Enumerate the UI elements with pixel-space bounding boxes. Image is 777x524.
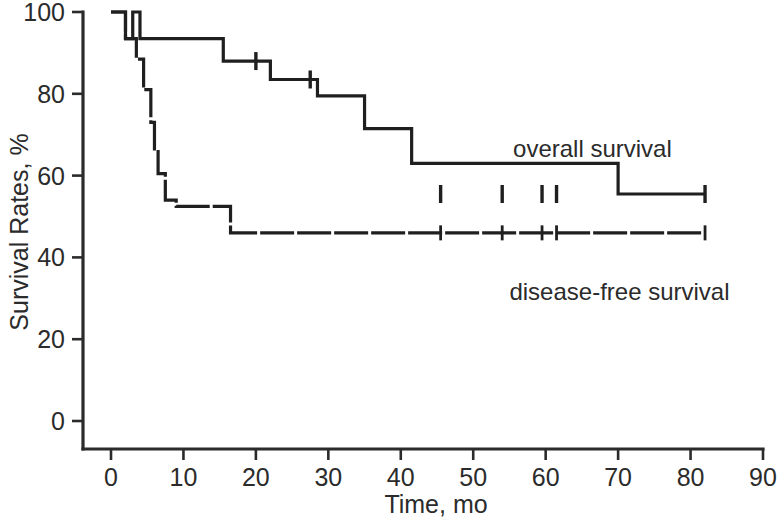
curve-disease-free-survival: [111, 12, 705, 233]
y-axis-ticks: [72, 12, 83, 421]
series-label-disease-free-survival: disease-free survival: [509, 278, 729, 305]
series-label-overall-survival: overall survival: [513, 135, 672, 162]
y-tick-label-20: 20: [37, 325, 65, 353]
x-axis-ticks: [111, 449, 763, 460]
x-tick-label-90: 90: [749, 463, 777, 491]
x-tick-label-70: 70: [604, 463, 632, 491]
x-tick-label-10: 10: [170, 463, 198, 491]
curve-overall-survival: [111, 12, 705, 194]
x-tick-label-80: 80: [677, 463, 705, 491]
series-overall-survival: [111, 12, 705, 203]
x-tick-label-40: 40: [387, 463, 415, 491]
x-tick-label-20: 20: [242, 463, 270, 491]
y-axis-title: Survival Rates, %: [5, 133, 33, 330]
x-axis-tick-labels: 0102030405060708090: [104, 463, 777, 491]
y-tick-label-0: 0: [51, 407, 65, 435]
series-disease-free-survival: [111, 12, 705, 240]
x-tick-label-30: 30: [314, 463, 342, 491]
y-tick-label-60: 60: [37, 162, 65, 190]
x-axis-title: Time, mo: [384, 490, 487, 518]
survival-chart: 020406080100 0102030405060708090 Time, m…: [0, 0, 777, 524]
y-tick-label-100: 100: [23, 0, 65, 26]
x-tick-label-0: 0: [104, 463, 118, 491]
series-labels: overall survivaldisease-free survival: [509, 135, 729, 305]
x-axis: 0102030405060708090: [83, 449, 777, 491]
x-tick-label-50: 50: [459, 463, 487, 491]
chart-canvas: 020406080100 0102030405060708090 Time, m…: [0, 0, 777, 524]
x-tick-label-60: 60: [532, 463, 560, 491]
y-tick-label-80: 80: [37, 80, 65, 108]
series-container: [111, 12, 705, 240]
y-tick-label-40: 40: [37, 243, 65, 271]
